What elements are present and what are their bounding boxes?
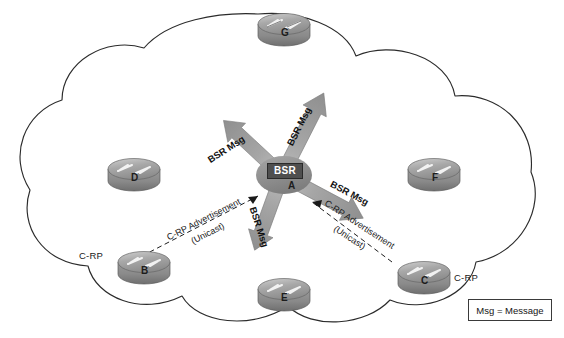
node-letter-C: C xyxy=(421,275,428,286)
crp-label-router-c: C-RP xyxy=(454,272,478,283)
bsr-tag: BSR xyxy=(267,163,303,179)
crp-label-router-b: C-RP xyxy=(79,250,103,261)
node-letter-E: E xyxy=(281,292,288,303)
node-letter-F: F xyxy=(432,172,438,183)
diagram-canvas: BSR Msg BSR Msg BSR Msg BSR Msg C-RP Adv… xyxy=(0,0,564,338)
node-letter-B: B xyxy=(141,265,148,276)
node-letter-D: D xyxy=(131,172,138,183)
node-letter-G: G xyxy=(281,27,289,38)
bsr-msg-label-upper-left: BSR Msg xyxy=(206,133,247,165)
node-letter-A: A xyxy=(288,180,295,191)
bsr-msg-label-lower-left: BSR Msg xyxy=(248,205,271,248)
bsr-msg-label-upper-right: BSR Msg xyxy=(285,105,314,147)
legend-box: Msg = Message xyxy=(468,299,552,321)
legend-text: Msg = Message xyxy=(476,305,543,316)
